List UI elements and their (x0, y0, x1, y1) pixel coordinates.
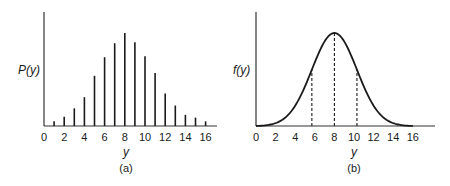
x-tick-label: 12 (159, 131, 171, 143)
panel-a-stems (54, 33, 206, 126)
panel-a-y-label: P(y) (18, 63, 40, 77)
x-tick-label: 10 (348, 131, 360, 143)
panel-b-caption: (b) (347, 162, 360, 174)
panel-b-x-tick-labels: 0246810121416 (253, 131, 419, 143)
x-tick-label: 16 (199, 131, 211, 143)
panel-a-x-tick-labels: 0246810121416 (41, 131, 212, 143)
panel-b-chart: 0246810121416 f(y) y (b) (233, 12, 435, 174)
x-tick-label: 16 (407, 131, 419, 143)
x-tick-label: 8 (331, 131, 337, 143)
x-tick-label: 0 (41, 131, 47, 143)
figure: 0246810121416 P(y) y (a) 0246810121416 f… (0, 0, 450, 186)
panel-b-y-label: f(y) (233, 63, 250, 77)
x-tick-label: 0 (253, 131, 259, 143)
x-tick-label: 2 (273, 131, 279, 143)
x-tick-label: 8 (122, 131, 128, 143)
x-tick-label: 2 (61, 131, 67, 143)
x-tick-label: 4 (81, 131, 87, 143)
x-tick-label: 14 (387, 131, 399, 143)
panel-a-x-label: y (122, 145, 130, 159)
x-tick-label: 6 (312, 131, 318, 143)
x-tick-label: 14 (179, 131, 191, 143)
panel-a-caption: (a) (119, 162, 132, 174)
panel-a-chart: 0246810121416 P(y) y (a) (18, 12, 217, 174)
x-tick-label: 6 (102, 131, 108, 143)
x-tick-label: 12 (367, 131, 379, 143)
panel-b-x-label: y (350, 145, 358, 159)
x-tick-label: 4 (292, 131, 298, 143)
panel-b-dashed-lines (312, 33, 357, 126)
x-tick-label: 10 (139, 131, 151, 143)
